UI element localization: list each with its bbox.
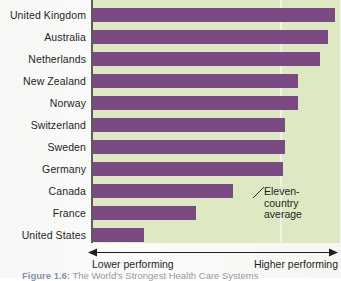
axis-end-labels: Lower performing Higher performing [92, 258, 338, 270]
bar-row [92, 184, 233, 198]
axis-label-lower: Lower performing [92, 258, 174, 270]
figure-caption-text: The World's Strongest Health Care System… [73, 270, 259, 281]
figure-caption: Figure 1.6: The World's Strongest Health… [22, 270, 258, 281]
bar-row [92, 206, 196, 220]
bar-row [92, 74, 298, 88]
performance-axis-arrow [88, 248, 338, 257]
annotation-line-1: Eleven- [264, 186, 334, 198]
bar-sweden [92, 140, 285, 154]
category-label-france: France [0, 207, 86, 219]
category-label-netherlands: Netherlands [0, 53, 86, 65]
category-label-united-kingdom: United Kingdom [0, 9, 86, 21]
axis-label-higher: Higher performing [254, 258, 338, 270]
bar-row [92, 162, 283, 176]
bar-row [92, 140, 285, 154]
bar-row [92, 118, 285, 132]
annotation-line-3: average [264, 209, 334, 221]
bar-row [92, 96, 298, 110]
bar-australia [92, 30, 328, 44]
category-label-australia: Australia [0, 31, 86, 43]
bar-united-kingdom [92, 8, 335, 22]
bar-row [92, 52, 320, 66]
category-label-united-states: United States [0, 229, 86, 241]
category-label-switzerland: Switzerland [0, 119, 86, 131]
bar-new-zealand [92, 74, 298, 88]
bar-row [92, 8, 335, 22]
category-label-sweden: Sweden [0, 141, 86, 153]
bar-france [92, 206, 196, 220]
bar-united-states [92, 228, 144, 242]
figure-caption-number: Figure 1.6: [22, 270, 70, 281]
category-label-germany: Germany [0, 163, 86, 175]
bar-switzerland [92, 118, 285, 132]
category-label-canada: Canada [0, 185, 86, 197]
bar-norway [92, 96, 298, 110]
bar-row [92, 30, 328, 44]
bar-germany [92, 162, 283, 176]
bar-canada [92, 184, 233, 198]
category-label-new-zealand: New Zealand [0, 75, 86, 87]
eleven-country-average-label: Eleven- country average [264, 186, 334, 221]
bar-netherlands [92, 52, 320, 66]
bar-row [92, 228, 144, 242]
category-label-norway: Norway [0, 97, 86, 109]
y-axis-line [91, 0, 93, 243]
